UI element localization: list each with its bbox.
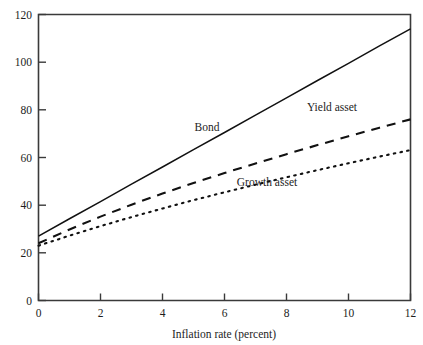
y-tick-label-120: 120 [15, 9, 33, 21]
x-tick-label-8: 8 [284, 307, 290, 319]
series-label-yield-asset: Yield asset [307, 101, 358, 113]
series-label-growth-asset: Growth asset [237, 176, 298, 188]
chart-figure: 0 20 40 60 80 100 120 0 2 4 6 8 10 12 [0, 0, 423, 345]
x-tick-label-4: 4 [160, 307, 166, 319]
y-tick-label-20: 20 [21, 247, 33, 259]
x-tick-label-10: 10 [343, 307, 355, 319]
y-axis-ticks [39, 15, 47, 301]
x-tick-label-2: 2 [98, 307, 104, 319]
series-line-bond [39, 29, 411, 236]
y-tick-label-40: 40 [21, 199, 33, 211]
plot-border [39, 15, 411, 301]
axis-frame [39, 15, 411, 301]
y-tick-label-60: 60 [21, 152, 33, 164]
y-tick-label-80: 80 [21, 104, 33, 116]
x-axis-ticks [39, 294, 411, 301]
series-group [39, 29, 411, 246]
y-axis-tick-labels: 0 20 40 60 80 100 120 [15, 9, 33, 307]
series-line-yield-asset [39, 119, 411, 243]
series-line-growth-asset [39, 150, 411, 246]
x-axis-tick-labels: 0 2 4 6 8 10 12 [36, 307, 417, 319]
y-tick-label-0: 0 [26, 295, 32, 307]
series-label-bond: Bond [195, 121, 220, 133]
x-tick-label-12: 12 [405, 307, 417, 319]
x-tick-label-6: 6 [222, 307, 228, 319]
x-axis-title: Inflation rate (percent) [172, 328, 276, 341]
x-tick-label-0: 0 [36, 307, 42, 319]
y-tick-label-100: 100 [15, 56, 33, 68]
line-chart: 0 20 40 60 80 100 120 0 2 4 6 8 10 12 [0, 0, 423, 345]
